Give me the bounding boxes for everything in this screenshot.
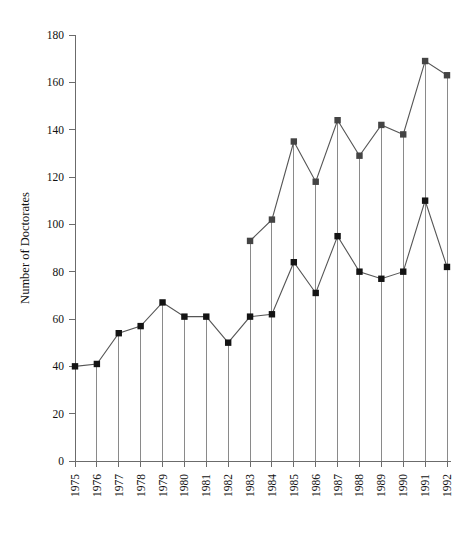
data-point-marker [203, 313, 209, 319]
data-point-marker [116, 330, 122, 336]
y-tick-label: 180 [47, 29, 65, 41]
x-tick-label: 1977 [113, 474, 125, 497]
data-point-marker [291, 138, 297, 144]
data-point-marker [313, 290, 319, 296]
x-tick-labels: 1975197619771978197919801981198219831984… [69, 474, 453, 497]
drop-lines-group [75, 61, 447, 461]
x-tick-label: 1981 [200, 474, 212, 497]
x-tick-label: 1978 [135, 474, 147, 497]
chart-container: 020406080100120140160180 197519761977197… [0, 0, 472, 537]
data-point-markers [72, 58, 450, 370]
x-tick-label: 1987 [332, 474, 344, 497]
x-tick-label: 1982 [222, 474, 234, 497]
data-point-marker [422, 197, 428, 203]
data-point-marker [247, 313, 253, 319]
data-point-marker [334, 117, 340, 123]
x-tick-label: 1990 [397, 474, 409, 497]
data-point-marker [356, 268, 362, 274]
data-point-marker [400, 131, 406, 137]
data-point-marker [400, 268, 406, 274]
x-tick-label: 1983 [244, 474, 256, 497]
data-point-marker [159, 299, 165, 305]
x-tick-label: 1992 [441, 474, 453, 497]
data-point-marker [444, 264, 450, 270]
x-tick-label: 1988 [353, 474, 365, 497]
y-tick-label: 160 [47, 76, 65, 88]
y-tick-label: 60 [53, 313, 65, 325]
x-tick-label: 1976 [91, 474, 103, 497]
y-tick-label: 0 [58, 455, 64, 467]
y-axis-title: Number of Doctorates [18, 192, 32, 304]
y-tick-label: 40 [53, 360, 65, 372]
data-point-marker [181, 313, 187, 319]
data-point-marker [313, 179, 319, 185]
series-line-lower-series [75, 201, 447, 367]
x-tick-label: 1975 [69, 474, 81, 497]
data-point-marker [225, 339, 231, 345]
data-point-marker [444, 72, 450, 78]
series-line-upper-series [250, 61, 447, 241]
y-tick-label: 120 [47, 171, 65, 183]
data-point-marker [269, 311, 275, 317]
data-point-marker [269, 216, 275, 222]
y-axis: 020406080100120140160180 [47, 29, 75, 467]
x-tick-marks [75, 461, 447, 467]
x-tick-label: 1984 [266, 474, 278, 497]
y-tick-marks [69, 35, 75, 461]
x-tick-label: 1985 [288, 474, 300, 497]
data-point-marker [72, 363, 78, 369]
y-tick-label: 20 [53, 408, 65, 420]
data-point-marker [137, 323, 143, 329]
y-tick-labels: 020406080100120140160180 [47, 29, 65, 467]
y-tick-label: 100 [47, 218, 65, 230]
y-tick-label: 140 [47, 124, 65, 136]
x-tick-label: 1991 [419, 474, 431, 497]
x-tick-label: 1980 [178, 474, 190, 497]
x-axis: 1975197619771978197919801981198219831984… [69, 461, 453, 497]
data-point-marker [334, 233, 340, 239]
data-point-marker [356, 153, 362, 159]
data-point-marker [291, 259, 297, 265]
series-lines-group [75, 61, 447, 366]
doctorates-line-chart: 020406080100120140160180 197519761977197… [0, 0, 472, 537]
data-point-marker [378, 122, 384, 128]
data-point-marker [422, 58, 428, 64]
x-tick-label: 1979 [157, 474, 169, 497]
x-tick-label: 1989 [375, 474, 387, 497]
y-tick-label: 80 [53, 266, 65, 278]
data-point-marker [247, 238, 253, 244]
x-tick-label: 1986 [310, 474, 322, 497]
data-point-marker [378, 276, 384, 282]
data-point-marker [94, 361, 100, 367]
